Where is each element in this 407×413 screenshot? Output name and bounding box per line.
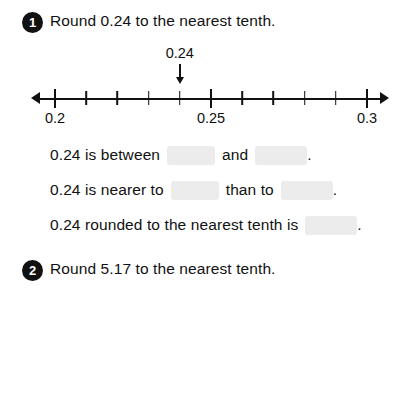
number-line-1: 0.24 0.20.250.3 — [0, 44, 407, 124]
sentence-text: and — [222, 144, 248, 166]
number-line-major-tick — [54, 89, 56, 108]
answer-blank[interactable] — [255, 146, 307, 165]
number-line-label: 0.2 — [45, 110, 65, 127]
answer-blank[interactable] — [171, 181, 219, 200]
number-line-minor-tick — [241, 91, 243, 105]
number-line-minor-tick — [335, 91, 337, 105]
number-line-label: 0.3 — [357, 110, 377, 127]
sentence-text: 0.24 is between — [50, 144, 160, 166]
sentence-text: than to — [226, 179, 274, 201]
sentence-text: 0.24 rounded to the nearest tenth is — [50, 214, 298, 236]
sentence-text: . — [333, 179, 337, 201]
number-line-major-tick — [366, 89, 368, 108]
number-line-minor-tick — [179, 91, 181, 105]
sentence-text: . — [307, 144, 311, 166]
sentence-line: 0.24 rounded to the nearest tenth is. — [50, 214, 362, 236]
answer-blank[interactable] — [167, 146, 215, 165]
number-line-minor-tick — [304, 91, 306, 105]
question-number-badge-2: 2 — [22, 260, 43, 281]
number-line-major-tick — [210, 89, 212, 108]
number-line-left-arrow-icon — [31, 92, 40, 104]
question-number-badge-1: 1 — [22, 12, 43, 33]
number-line-minor-tick — [273, 91, 275, 105]
number-line-minor-tick — [117, 91, 119, 105]
question-2-title: Round 5.17 to the nearest tenth. — [50, 258, 276, 280]
sentence-line: 0.24 is betweenand. — [50, 144, 312, 166]
number-line-minor-tick — [85, 91, 87, 105]
answer-blank[interactable] — [305, 216, 357, 235]
number-line-minor-tick — [148, 91, 150, 105]
sentence-line: 0.24 is nearer tothan to. — [50, 179, 337, 201]
sentence-text: . — [357, 214, 361, 236]
number-line-callout-label: 0.24 — [166, 44, 194, 62]
worksheet-page: 1 Round 0.24 to the nearest tenth. 0.24 … — [0, 0, 407, 413]
sentence-text: 0.24 is nearer to — [50, 179, 164, 201]
answer-blank[interactable] — [281, 181, 333, 200]
question-2-header: 2 Round 5.17 to the nearest tenth. — [0, 258, 407, 286]
question-1-header: 1 Round 0.24 to the nearest tenth. — [0, 10, 407, 38]
question-block-1: 1 Round 0.24 to the nearest tenth. 0.24 … — [0, 10, 407, 38]
number-line-label: 0.25 — [197, 110, 225, 127]
question-1-title: Round 0.24 to the nearest tenth. — [50, 10, 276, 32]
number-line-right-arrow-icon — [380, 92, 389, 104]
question-block-2: 2 Round 5.17 to the nearest tenth. 5.17 … — [0, 258, 407, 286]
